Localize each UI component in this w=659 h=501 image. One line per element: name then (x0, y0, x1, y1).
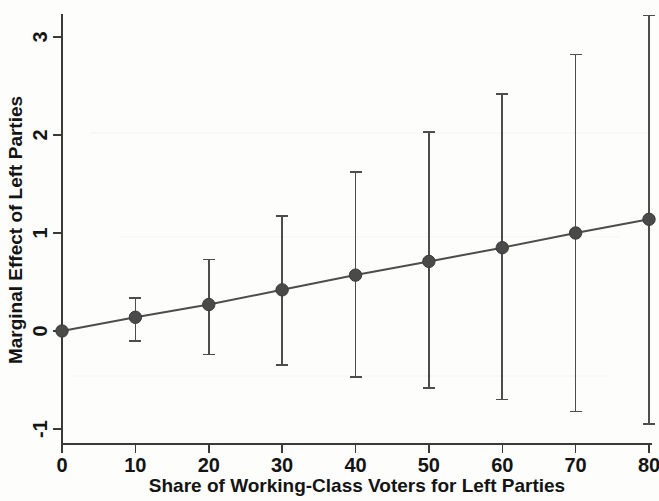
data-point-x40 (349, 269, 361, 281)
data-point-x50 (423, 255, 435, 267)
x-tick-label-40: 40 (344, 454, 366, 476)
data-point-x0 (56, 325, 68, 337)
marginal-effect-plot: -10123 01020304050607080 Share of Workin… (0, 0, 659, 501)
data-point-x20 (203, 298, 215, 310)
y-tick-label--1: -1 (29, 420, 51, 438)
x-tick-label-10: 10 (124, 454, 146, 476)
y-tick-label-1: 1 (29, 227, 51, 238)
y-tick-label-0: 0 (29, 325, 51, 336)
x-tick-label-60: 60 (491, 454, 513, 476)
x-tick-label-20: 20 (198, 454, 220, 476)
data-point-x80 (643, 213, 655, 225)
data-point-x30 (276, 284, 288, 296)
x-tick-label-30: 30 (271, 454, 293, 476)
y-tick-label-2: 2 (29, 129, 51, 140)
x-tick-label-50: 50 (418, 454, 440, 476)
chart-canvas: -10123 01020304050607080 Share of Workin… (0, 0, 659, 501)
data-point-x60 (496, 242, 508, 254)
x-tick-label-80: 80 (638, 454, 659, 476)
y-axis-title: Marginal Effect of Left Parties (5, 96, 26, 364)
y-tick-label-3: 3 (29, 31, 51, 42)
x-tick-label-70: 70 (565, 454, 587, 476)
x-tick-label-0: 0 (56, 454, 67, 476)
x-axis-title: Share of Working-Class Voters for Left P… (149, 475, 565, 496)
data-point-x10 (129, 311, 141, 323)
plot-background (0, 0, 659, 501)
data-point-x70 (569, 227, 581, 239)
